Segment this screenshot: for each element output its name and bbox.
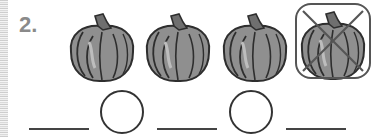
cross-icon bbox=[297, 5, 369, 77]
operator-circle-1[interactable] bbox=[100, 90, 144, 134]
pumpkin-icon bbox=[139, 12, 217, 84]
crossed-out-box bbox=[295, 3, 371, 79]
pumpkin-icon bbox=[63, 12, 141, 84]
page-edge-strip bbox=[0, 0, 8, 137]
pumpkin-icon bbox=[216, 12, 294, 84]
answer-blank-2[interactable] bbox=[157, 128, 217, 130]
exercise-number: 2. bbox=[19, 12, 37, 38]
operator-circle-2[interactable] bbox=[229, 90, 273, 134]
answer-blank-1[interactable] bbox=[29, 128, 89, 130]
answer-blank-3[interactable] bbox=[286, 128, 346, 130]
